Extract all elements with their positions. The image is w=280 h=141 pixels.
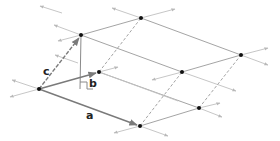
point-ac bbox=[180, 70, 184, 74]
point-bc bbox=[139, 16, 143, 20]
point-a bbox=[138, 124, 142, 128]
label-a: a bbox=[86, 109, 93, 122]
label-b: b bbox=[89, 77, 97, 90]
point-b bbox=[97, 70, 101, 74]
lattice-diagram: a b c bbox=[0, 0, 280, 141]
point-abc bbox=[239, 53, 243, 57]
label-c: c bbox=[43, 65, 50, 78]
point-origin bbox=[37, 87, 41, 91]
point-ab bbox=[197, 106, 201, 110]
vector-c bbox=[39, 38, 79, 89]
lattice-points bbox=[37, 16, 243, 128]
cell-edges bbox=[81, 18, 241, 126]
point-c bbox=[79, 33, 83, 37]
